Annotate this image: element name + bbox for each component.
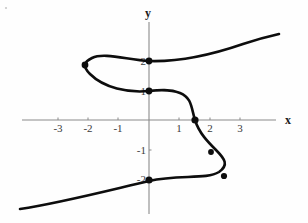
marked-point — [146, 88, 153, 95]
marked-point — [82, 62, 89, 69]
marked-point — [191, 116, 198, 123]
x-axis-label: x — [285, 113, 291, 127]
x-tick-label: 3 — [237, 122, 243, 134]
y-tick-label: -1 — [137, 144, 146, 156]
marked-point — [145, 176, 152, 183]
x-tick-label: -1 — [113, 122, 122, 134]
x-tick-label: -3 — [53, 122, 63, 134]
corner-speck-artifact — [5, 7, 7, 9]
x-tick-label: -2 — [83, 122, 92, 134]
y-axis-label: y — [145, 6, 151, 20]
graph-canvas: -3-2-1123 21-1-2 x y — [0, 0, 308, 223]
marked-point — [221, 173, 227, 179]
plot-root: -3-2-1123 21-1-2 x y — [0, 0, 308, 223]
marked-points-group — [82, 58, 228, 184]
x-tick-label: 1 — [176, 122, 182, 134]
marked-point — [146, 58, 153, 65]
x-tick-label: 2 — [207, 122, 213, 134]
marked-point — [208, 149, 214, 155]
